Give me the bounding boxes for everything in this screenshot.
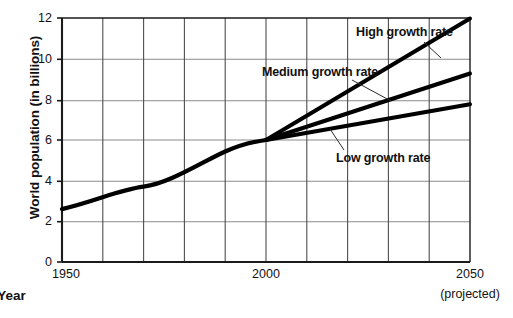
series-annotation-medium: Medium growth rate [262, 65, 378, 79]
y-tick-label-8: 8 [18, 94, 52, 106]
y-tick-label-6: 6 [18, 134, 52, 146]
x-tick-label-2050: 2050 [430, 268, 510, 281]
y-tick-label-12: 12 [18, 12, 52, 24]
y-tick-label-4: 4 [18, 175, 52, 187]
series-annotation-low: Low growth rate [336, 151, 430, 165]
y-tick-label-0: 0 [18, 256, 52, 268]
y-axis-title: World population (in billions) [27, 8, 42, 248]
x-axis-title: Year [0, 288, 513, 303]
y-tick-label-10: 10 [18, 53, 52, 65]
population-growth-chart: World population (in billions) 12 10 8 6… [0, 0, 513, 318]
series-annotation-high: High growth rate [356, 25, 453, 39]
x-axis-title-text: Year [0, 288, 26, 303]
x-tick-label-2000: 2000 [226, 268, 306, 281]
y-tick-label-2: 2 [18, 215, 52, 227]
x-tick-label-1950: 1950 [26, 268, 106, 281]
